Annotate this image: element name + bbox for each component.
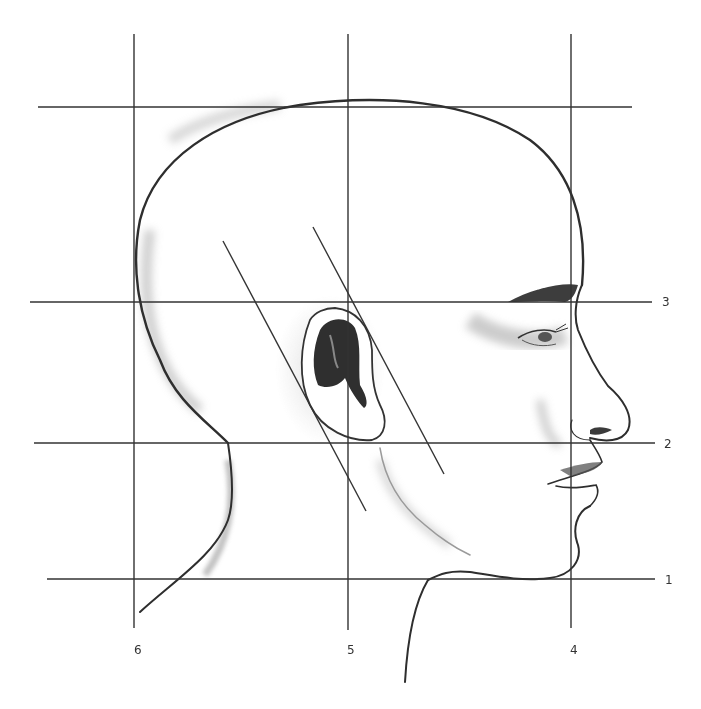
label-line-2: 2 — [664, 438, 672, 450]
label-line-4: 4 — [570, 644, 578, 656]
label-line-1: 1 — [665, 574, 673, 586]
label-line-5: 5 — [347, 644, 355, 656]
nostril — [590, 427, 612, 434]
label-line-3: 3 — [662, 296, 670, 308]
head-proportion-diagram: 3 2 1 6 5 4 — [0, 0, 701, 709]
head-outline — [136, 100, 630, 682]
label-line-6: 6 — [134, 644, 142, 656]
upper-lip — [560, 462, 602, 476]
head-profile-drawing — [0, 0, 701, 709]
